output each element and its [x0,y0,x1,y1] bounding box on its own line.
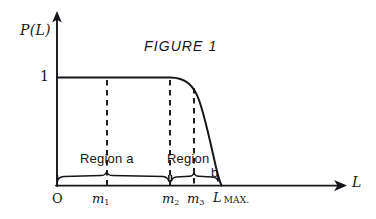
x-axis [56,180,347,191]
m3-base: m [187,191,199,206]
x-tick-label-m2: m2 [162,192,179,207]
y-axis [52,11,62,186]
x-tick-label-m3: m3 [187,192,204,207]
figure-container: P(L) 1 FIGURE 1 Region a Region b O m1 m… [0,0,376,219]
m3-subscript: 3 [199,198,204,207]
m2-subscript: 2 [174,198,179,207]
m1-base: m [92,191,104,206]
figure-title: FIGURE 1 [144,39,217,53]
brace-region-a [58,172,169,181]
y-axis-label: P(L) [20,23,51,37]
region-b-label: Region [167,152,209,165]
figure-plot [0,0,376,219]
lmax-base: L [213,190,222,205]
x-tick-label-origin: O [52,192,63,205]
region-a-label: Region a [80,152,134,165]
y-tick-label-1: 1 [40,69,49,83]
m2-base: m [162,191,174,206]
x-axis-label: L [352,175,361,189]
region-b-letter-label: b [211,166,218,179]
m1-subscript: 1 [104,198,109,207]
probability-curve [57,78,222,186]
lmax-subscript: MAX. [222,195,250,205]
x-tick-label-m1: m1 [92,192,109,207]
x-tick-label-lmax: LMAX. [213,191,249,205]
